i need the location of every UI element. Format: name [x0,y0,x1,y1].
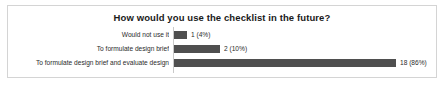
bar-category-label: To formulate design brief [8,42,169,56]
bar [174,31,187,39]
chart-title: How would you use the checklist in the f… [8,12,436,23]
bar-category-label: To formulate design brief and evaluate d… [8,56,169,70]
bar-value-label: 2 (10%) [224,42,247,56]
bar-track: 18 (86%) [174,56,436,70]
plot-area: Would not use it 1 (4%) To formulate des… [8,27,436,73]
bar-value-label: 18 (86%) [400,56,427,70]
bar-track: 1 (4%) [174,28,436,42]
bar-value-label: 1 (4%) [191,28,210,42]
bar [174,59,396,67]
bar [174,45,220,53]
bar-row: To formulate design brief and evaluate d… [8,56,436,70]
bar-category-label: Would not use it [8,28,169,42]
bar-row: To formulate design brief 2 (10%) [8,42,436,56]
bar-track: 2 (10%) [174,42,436,56]
chart-container: How would you use the checklist in the f… [7,5,437,78]
bar-row: Would not use it 1 (4%) [8,28,436,42]
